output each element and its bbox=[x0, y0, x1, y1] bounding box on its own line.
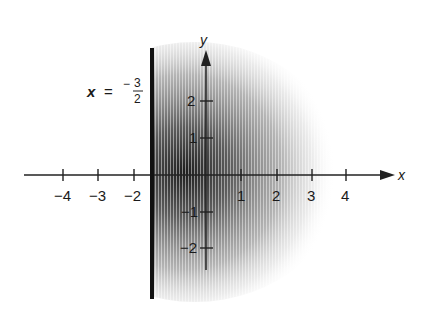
y-tick-1: 1 bbox=[189, 129, 197, 146]
y-tick-neg2: −2 bbox=[180, 239, 197, 256]
boundary-label-sign: − bbox=[123, 77, 130, 91]
boundary-label-denominator: 2 bbox=[134, 92, 141, 106]
x-tick-neg3: −3 bbox=[89, 187, 106, 204]
boundary-label-numerator: 3 bbox=[134, 76, 141, 90]
x-tick-4: 4 bbox=[341, 187, 349, 204]
x-tick-3: 3 bbox=[307, 187, 315, 204]
y-tick-neg1: −1 bbox=[181, 203, 198, 220]
x-axis-label: x bbox=[397, 167, 406, 183]
x-tick-1: 1 bbox=[237, 187, 245, 204]
y-tick-2: 2 bbox=[187, 92, 195, 109]
boundary-label-x: x bbox=[86, 83, 96, 100]
boundary-label: x = − 3 2 bbox=[86, 76, 143, 106]
boundary-label-equals: = bbox=[104, 83, 113, 100]
x-tick-neg2: −2 bbox=[124, 187, 141, 204]
y-axis-label: y bbox=[199, 32, 208, 48]
diagram-canvas: x −4 −3 −2 1 2 3 4 y 2 1 −1 −2 bbox=[0, 0, 436, 319]
x-tick-2: 2 bbox=[272, 187, 280, 204]
x-tick-neg4: −4 bbox=[54, 187, 71, 204]
shaded-region bbox=[45, 42, 345, 302]
x-axis-arrow-icon bbox=[380, 170, 395, 180]
